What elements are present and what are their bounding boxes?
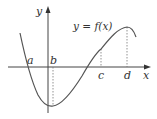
point-label-a: a [27,54,34,67]
y-axis-arrow-icon [46,6,51,13]
point-label-b: b [50,54,57,67]
y-axis-label: y [35,5,43,18]
function-label: y = f(x) [72,20,112,32]
point-label-d: d [124,69,131,82]
x-axis-label: x [143,69,150,82]
function-graph: y x y = f(x) a b c d [0,0,157,119]
point-label-c: c [98,69,104,82]
